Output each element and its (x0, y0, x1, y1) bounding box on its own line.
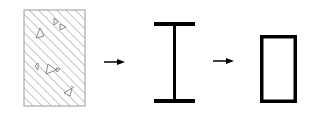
section-diagram (0, 0, 320, 116)
hatched-concrete-section-icon (24, 10, 85, 106)
right-arrow-icon (104, 59, 125, 65)
hollow-rectangle-section-icon (262, 37, 296, 102)
diagram-canvas (0, 0, 320, 116)
i-beam-section-icon (154, 22, 195, 103)
right-arrow-icon (213, 58, 234, 64)
